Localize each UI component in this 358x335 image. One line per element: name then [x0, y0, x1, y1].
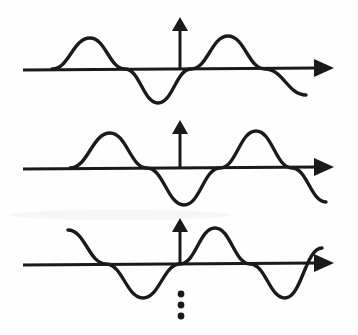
- sine-wave-phase-diagram: [0, 0, 358, 335]
- ellipsis-dot-1: [178, 291, 185, 298]
- figure-root: [0, 0, 358, 335]
- continuation-ellipsis-icon: [178, 291, 185, 320]
- ellipsis-dot-2: [178, 302, 185, 309]
- horizontal-axis-3: [23, 263, 318, 265]
- ellipsis-dot-3: [178, 313, 185, 320]
- paper-smudge: [10, 210, 230, 220]
- horizontal-axis-2: [23, 167, 318, 169]
